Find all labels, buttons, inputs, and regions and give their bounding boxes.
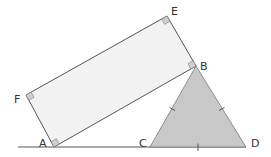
label-f: F — [14, 93, 20, 106]
label-a: A — [39, 137, 47, 150]
label-c: C — [139, 137, 147, 150]
label-b: B — [200, 60, 208, 73]
label-d: D — [251, 137, 259, 150]
label-e: E — [171, 5, 178, 18]
geometry-diagram: E B F A C D — [0, 0, 271, 157]
